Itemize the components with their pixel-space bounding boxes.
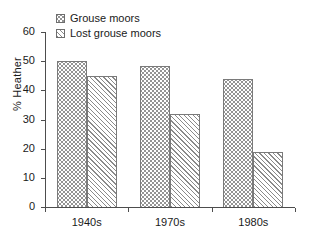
y-tick-label: 50 bbox=[13, 55, 35, 66]
y-tick-mark bbox=[41, 32, 45, 33]
legend-item: Grouse moors bbox=[56, 11, 161, 25]
y-tick-label: 60 bbox=[13, 26, 35, 37]
y-tick-mark bbox=[41, 178, 45, 179]
bar bbox=[87, 76, 117, 207]
x-tick-label: 1940s bbox=[57, 217, 117, 228]
legend-label: Lost grouse moors bbox=[70, 28, 161, 39]
x-axis-line bbox=[45, 207, 295, 208]
x-tick-label: 1970s bbox=[140, 217, 200, 228]
x-tick-mark bbox=[212, 208, 213, 212]
x-tick-mark bbox=[295, 208, 296, 212]
bar bbox=[57, 61, 87, 207]
bar bbox=[253, 152, 283, 207]
y-tick-label: 20 bbox=[13, 143, 35, 154]
y-tick-mark bbox=[41, 149, 45, 150]
y-tick-label: 40 bbox=[13, 84, 35, 95]
x-tick-mark bbox=[45, 208, 46, 212]
bar-chart: % Heather 0102030405060 1940s1970s1980s … bbox=[0, 0, 309, 236]
y-axis-line bbox=[45, 32, 46, 208]
bar bbox=[223, 79, 253, 207]
legend-swatch-grouse-moors-icon bbox=[56, 14, 65, 23]
bar bbox=[170, 114, 200, 207]
legend: Grouse moors Lost grouse moors bbox=[56, 11, 161, 41]
y-tick-label: 30 bbox=[13, 114, 35, 125]
legend-label: Grouse moors bbox=[70, 13, 140, 24]
y-tick-mark bbox=[41, 90, 45, 91]
legend-item: Lost grouse moors bbox=[56, 26, 161, 40]
bar bbox=[140, 66, 170, 207]
y-tick-mark bbox=[41, 61, 45, 62]
y-tick-mark bbox=[41, 120, 45, 121]
y-tick-label: 10 bbox=[13, 172, 35, 183]
legend-swatch-lost-grouse-moors-icon bbox=[56, 29, 65, 38]
y-tick-label: 0 bbox=[13, 201, 35, 212]
x-tick-mark bbox=[128, 208, 129, 212]
x-tick-label: 1980s bbox=[223, 217, 283, 228]
